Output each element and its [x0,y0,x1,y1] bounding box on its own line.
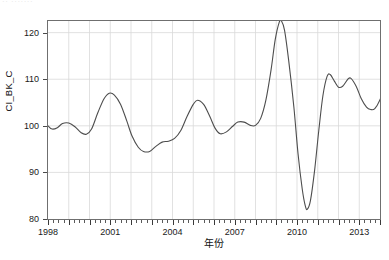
x-minor-tick [126,220,127,223]
x-minor-tick [79,220,80,223]
x-major-tick [339,220,340,225]
x-major-tick [380,220,381,225]
x-minor-tick [64,220,65,223]
clipped-header-text: ·· ······· [2,0,122,6]
x-minor-tick [313,220,314,223]
x-minor-tick [364,220,365,223]
x-minor-tick [167,220,168,223]
x-minor-tick [53,220,54,223]
x-minor-tick [74,220,75,223]
x-minor-tick [58,220,59,223]
x-minor-tick [224,220,225,223]
x-minor-tick [287,220,288,223]
x-major-tick [359,220,360,225]
y-tick-label: 80 [29,215,39,224]
y-tick-label: 100 [24,121,39,130]
x-minor-tick [250,220,251,223]
x-minor-tick [266,220,267,223]
x-minor-tick [219,220,220,223]
x-tick-label: 1998 [38,227,58,237]
x-minor-tick [141,220,142,223]
x-minor-tick [349,220,350,223]
x-minor-tick [95,220,96,223]
y-tick-label: 90 [29,168,39,177]
plot-canvas [48,21,380,219]
x-minor-tick [100,220,101,223]
y-axis: 1201101009080 [0,0,47,260]
x-minor-tick [307,220,308,223]
x-minor-tick [84,220,85,223]
x-minor-tick [188,220,189,223]
x-minor-tick [344,220,345,223]
x-minor-tick [245,220,246,223]
x-minor-tick [162,220,163,223]
y-tick-label: 110 [25,75,39,84]
x-major-tick [131,220,132,225]
x-minor-tick [281,220,282,223]
x-major-tick [256,220,257,225]
y-axis-title: CI_BK_C [4,55,14,127]
x-minor-tick [230,220,231,223]
x-minor-tick [323,220,324,223]
x-minor-tick [204,220,205,223]
x-minor-tick [115,220,116,223]
x-major-tick [193,220,194,225]
x-minor-tick [147,220,148,223]
x-minor-tick [333,220,334,223]
x-major-tick [69,220,70,225]
x-minor-tick [183,220,184,223]
x-tick-label: 2004 [162,227,182,237]
x-tick-label: 2010 [287,227,307,237]
x-axis-title: 年份 [47,238,381,250]
x-minor-tick [292,220,293,223]
x-major-tick [318,220,319,225]
y-tick-label: 120 [24,28,39,37]
x-minor-tick [105,220,106,223]
x-major-tick [214,220,215,225]
x-minor-tick [328,220,329,223]
x-minor-tick [240,220,241,223]
x-minor-tick [157,220,158,223]
x-minor-tick [354,220,355,223]
x-minor-tick [178,220,179,223]
x-minor-tick [209,220,210,223]
x-minor-tick [136,220,137,223]
x-minor-tick [261,220,262,223]
x-major-tick [276,220,277,225]
x-major-tick [297,220,298,225]
x-major-tick [110,220,111,225]
x-minor-tick [121,220,122,223]
x-minor-tick [302,220,303,223]
x-minor-tick [370,220,371,223]
x-tick-label: 2007 [225,227,245,237]
x-major-tick [48,220,49,225]
chart-figure: ·· ······· 1201101009080 CI_BK_C 1998200… [0,0,389,260]
plot-area [47,20,381,220]
x-minor-tick [271,220,272,223]
x-tick-label: 2001 [100,227,120,237]
x-minor-tick [375,220,376,223]
x-minor-tick [198,220,199,223]
x-major-tick [235,220,236,225]
x-major-tick [90,220,91,225]
x-major-tick [173,220,174,225]
x-tick-label: 2013 [349,227,369,237]
vertical-gridlines [69,21,360,219]
x-major-tick [152,220,153,225]
